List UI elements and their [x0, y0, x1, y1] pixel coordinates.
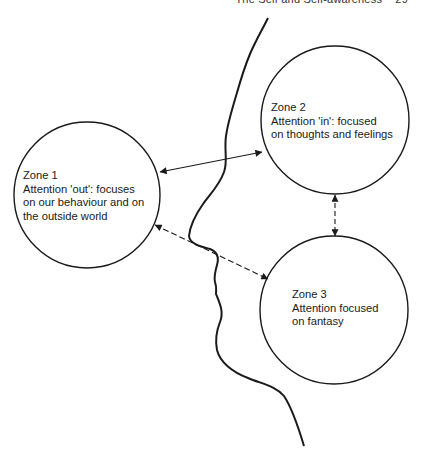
zone1-label: Zone 1 Attention 'out': focuses on our b… — [23, 169, 144, 223]
zone1-line-1: Attention 'out': focuses — [23, 183, 144, 197]
zone2-line-1: Attention 'in': focused — [271, 115, 393, 129]
zone2-label: Zone 2 Attention 'in': focused on though… — [271, 101, 393, 142]
zone3-line-1: Attention focused — [292, 302, 378, 316]
zone1-line-3: the outside world — [23, 210, 144, 224]
attention-zones-diagram — [0, 0, 422, 465]
zone1-zone2-solid-arrow — [160, 152, 262, 172]
zone1-title: Zone 1 — [23, 169, 144, 183]
zone1-zone3-dashed-arrow — [155, 225, 268, 279]
zone2-title: Zone 2 — [271, 101, 393, 115]
zone3-label: Zone 3 Attention focused on fantasy — [292, 288, 378, 329]
zone1-line-2: on our behaviour and on — [23, 196, 144, 210]
zone2-line-2: on thoughts and feelings — [271, 128, 393, 142]
zone3-line-2: on fantasy — [292, 315, 378, 329]
zone3-title: Zone 3 — [292, 288, 378, 302]
face-profile-outline — [189, 18, 304, 446]
